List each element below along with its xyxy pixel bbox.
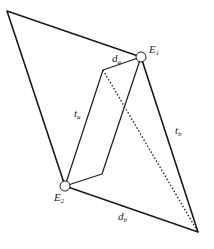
label-tb: tb xyxy=(175,124,182,138)
label-da: da xyxy=(112,52,122,66)
outer-edge-right xyxy=(65,57,198,232)
path-inner-right xyxy=(65,57,141,186)
label-ta: ta xyxy=(74,107,81,121)
label-E1: E1 xyxy=(148,43,159,57)
label-db: db xyxy=(118,210,128,224)
dotted-diagonal xyxy=(103,70,198,232)
label-E2: E2 xyxy=(53,191,65,205)
node-E1 xyxy=(136,52,146,62)
path-ta-da xyxy=(65,57,141,186)
node-E2 xyxy=(60,181,70,191)
diagram-canvas: E1 E2 da db ta tb xyxy=(0,0,214,249)
